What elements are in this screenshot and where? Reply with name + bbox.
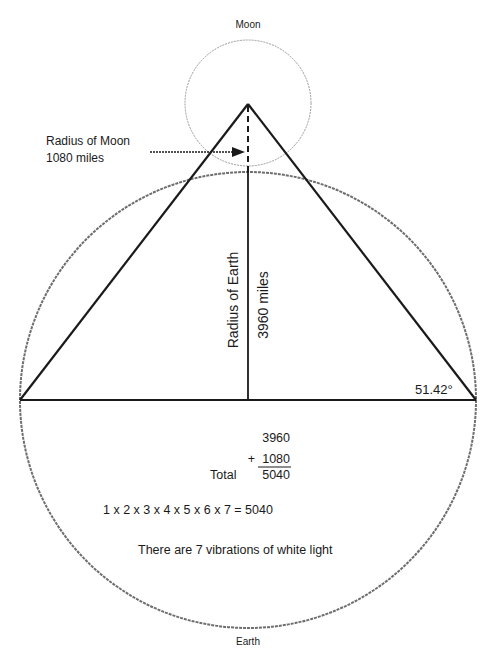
factorial-equation: 1 x 2 x 3 x 4 x 5 x 6 x 7 = 5040 — [103, 503, 273, 517]
radius-of-earth-label: Radius of Earth — [225, 252, 241, 349]
angle-label: 51.42° — [415, 382, 453, 397]
sum-addend-2: 1080 — [262, 452, 290, 466]
earth-radius-value: 3960 miles — [255, 271, 271, 339]
triangle-right-side — [248, 104, 476, 400]
sum-plus-sign: + — [248, 452, 255, 466]
arrowhead-icon — [232, 147, 245, 157]
sum-addend-1: 3960 — [262, 431, 290, 445]
earth-moon-diagram: Moon Radius of Moon 1080 miles Radius of… — [0, 0, 483, 669]
radius-of-moon-label: Radius of Moon — [46, 134, 130, 148]
sum-total-label: Total — [210, 468, 236, 482]
moon-label: Moon — [235, 19, 260, 30]
moon-radius-value: 1080 miles — [46, 151, 104, 165]
earth-label: Earth — [236, 636, 260, 647]
caption: There are 7 vibrations of white light — [138, 543, 333, 557]
triangle-left-side — [20, 104, 248, 400]
sum-total-value: 5040 — [262, 468, 290, 482]
